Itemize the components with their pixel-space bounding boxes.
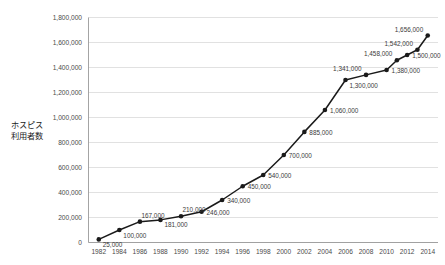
data-point-marker: [261, 173, 266, 178]
y-tick-label: 1,600,000: [53, 39, 83, 46]
data-point-label: 25,000: [103, 241, 123, 248]
y-axis-tick-labels: 0200,000400,000600,000800,0001,000,0001,…: [53, 14, 83, 246]
y-tick-label: 200,000: [58, 214, 82, 221]
data-point-labels: 25,000100,000167,000181,000210,000246,00…: [103, 26, 441, 248]
data-point-label: 246,000: [207, 209, 231, 216]
x-tick-label: 2000: [276, 248, 291, 255]
y-tick-label: 1,000,000: [53, 114, 83, 121]
data-line: [99, 36, 428, 240]
y-axis-title-line-2: 利用者数: [11, 131, 43, 141]
data-point-label: 100,000: [123, 232, 147, 239]
data-point-label: 540,000: [268, 172, 292, 179]
x-tick-label: 1982: [91, 248, 106, 255]
data-point-label: 1,500,000: [412, 52, 441, 59]
data-point-marker: [282, 153, 287, 158]
data-point-label: 167,000: [141, 212, 165, 219]
y-tick-label: 1,400,000: [53, 64, 83, 71]
data-point-label: 1,341,000: [333, 65, 362, 72]
x-tick-label: 1994: [215, 248, 230, 255]
data-point-label: 450,000: [248, 183, 272, 190]
data-point-label: 1,060,000: [330, 107, 359, 114]
hospice-users-line-chart: 0200,000400,000600,000800,0001,000,0001,…: [0, 0, 445, 265]
x-tick-label: 2012: [400, 248, 415, 255]
data-point-marker: [138, 219, 143, 224]
x-tick-label: 2004: [318, 248, 333, 255]
data-point-label: 1,300,000: [349, 82, 378, 89]
x-tick-label: 1988: [153, 248, 168, 255]
x-tick-label: 2010: [379, 248, 394, 255]
data-point-marker: [179, 214, 184, 219]
data-point-label: 1,656,000: [395, 26, 424, 33]
data-point-marker: [323, 108, 328, 113]
chart-canvas: 0200,000400,000600,000800,0001,000,0001,…: [0, 0, 445, 265]
data-point-label: 340,000: [227, 197, 251, 204]
data-point-label: 1,380,000: [392, 67, 421, 74]
data-point-marker: [302, 130, 307, 135]
data-point-label: 1,458,000: [364, 50, 393, 57]
x-tick-label: 1992: [194, 248, 209, 255]
y-tick-label: 1,200,000: [53, 89, 83, 96]
y-tick-label: 600,000: [58, 164, 82, 171]
data-point-label: 181,000: [164, 221, 188, 228]
x-tick-label: 2014: [420, 248, 435, 255]
x-axis-tick-labels: 1982198419861988199019921994199619982000…: [91, 248, 435, 255]
y-axis-title-line-1: ホスピス: [11, 120, 43, 130]
data-point-marker: [405, 53, 410, 58]
data-point-label: 210,000: [183, 206, 207, 213]
data-point-marker: [384, 68, 389, 73]
y-tick-label: 800,000: [58, 139, 82, 146]
data-point-marker: [425, 33, 430, 38]
data-point-marker: [96, 237, 101, 242]
data-point-marker: [220, 198, 225, 203]
y-axis-title: ホスピス 利用者数: [11, 120, 43, 141]
data-point-markers: [96, 33, 430, 241]
x-tick-label: 1998: [256, 248, 271, 255]
data-point-label: 885,000: [309, 129, 333, 136]
x-tick-label: 1984: [112, 248, 127, 255]
x-tick-label: 1990: [174, 248, 189, 255]
x-tick-label: 2002: [297, 248, 312, 255]
y-tick-label: 1,800,000: [53, 14, 83, 21]
y-tick-label: 0: [78, 239, 82, 246]
y-tick-label: 400,000: [58, 189, 82, 196]
data-point-marker: [117, 228, 122, 233]
data-point-marker: [240, 184, 245, 189]
data-point-label: 700,000: [289, 152, 313, 159]
data-point-marker: [395, 58, 400, 63]
data-point-label: 1,542,000: [385, 40, 414, 47]
series-line-group: [99, 36, 428, 240]
x-tick-label: 1986: [133, 248, 148, 255]
x-tick-label: 1996: [235, 248, 250, 255]
x-tick-label: 2008: [359, 248, 374, 255]
x-tick-label: 2006: [338, 248, 353, 255]
data-point-marker: [364, 73, 369, 78]
data-point-marker: [343, 78, 348, 83]
